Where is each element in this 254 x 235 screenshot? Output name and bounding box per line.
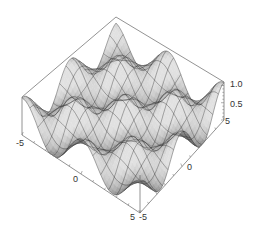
x-tick-label: -5 [16,138,24,148]
y-tick-label: 5 [225,116,230,126]
z-tick-label: 0.5 [230,99,243,109]
y-tick-label: 0 [187,162,192,172]
surface-mesh [22,23,224,195]
x-tick-label: 5 [130,212,135,222]
surface-plot: -5 0 5 -5 0 5 1.0 0.5 [0,0,254,235]
z-tick-label: 1.0 [230,79,243,89]
z-axis: 1.0 0.5 [230,79,243,109]
x-tick-label: 0 [73,174,78,184]
y-tick-label: -5 [139,212,147,222]
